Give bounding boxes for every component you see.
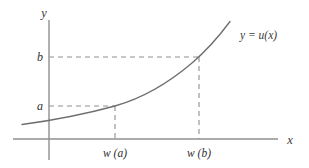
curve-equation-label: y = u(x) bbox=[239, 29, 277, 42]
function-graph-figure: y x b a w (a) w (b) y = u(x) bbox=[0, 0, 309, 168]
x-tick-label-wb: w (b) bbox=[187, 147, 211, 160]
function-curve bbox=[22, 22, 230, 125]
y-tick-label-a: a bbox=[37, 99, 43, 113]
y-axis-label: y bbox=[39, 6, 47, 20]
x-axis-label: x bbox=[286, 133, 293, 147]
x-tick-label-wa: w (a) bbox=[103, 147, 127, 160]
y-tick-label-b: b bbox=[37, 50, 43, 64]
